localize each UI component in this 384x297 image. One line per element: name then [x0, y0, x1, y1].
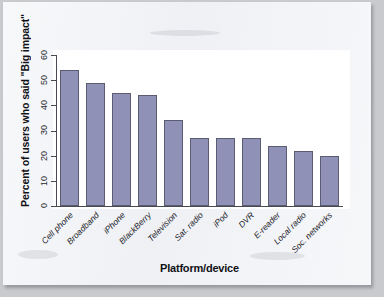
y-axis-tick-label: 60	[34, 47, 49, 63]
y-axis-tick-label-text: 40	[39, 100, 49, 110]
bar-slot	[161, 55, 187, 206]
scanned-chart-page: Percent of users who said "Big impact" 0…	[0, 0, 384, 297]
bar	[268, 146, 287, 206]
bar	[320, 156, 339, 206]
bar-slot	[83, 55, 109, 206]
x-axis-label-slot: Broadband	[83, 209, 109, 267]
bar-slot	[109, 55, 135, 206]
y-axis-tick-label-text: 30	[39, 125, 49, 135]
x-axis-label-slot: Soc. networks	[316, 209, 342, 267]
x-axis-label-text: iPod	[211, 210, 230, 229]
y-axis-tick	[51, 131, 56, 132]
bar-slot	[290, 55, 316, 206]
y-axis-tick	[51, 105, 56, 106]
y-axis-tick-label: 20	[34, 148, 49, 164]
x-axis-label-text: DVR	[237, 210, 257, 230]
y-axis-tick-label: 30	[34, 123, 49, 139]
bar	[242, 138, 261, 206]
bar	[294, 151, 313, 206]
bar	[216, 138, 235, 206]
x-axis-label-slot: Sat. radio	[187, 209, 213, 267]
y-axis-tick-label-text: 60	[39, 50, 49, 60]
bar-series	[57, 55, 342, 206]
x-axis-tick-labels: Cell phoneBroadbandiPhoneBlackBerryTelev…	[57, 209, 342, 267]
bar-slot	[316, 55, 342, 206]
x-axis-line	[56, 206, 343, 207]
y-axis-tick-label-text: 50	[39, 75, 49, 85]
bar-slot	[264, 55, 290, 206]
bar	[86, 83, 105, 206]
y-axis-tick	[51, 181, 56, 182]
bar-slot	[212, 55, 238, 206]
y-axis-title-text: Percent of users who said "Big impact"	[19, 14, 31, 207]
bar-slot	[57, 55, 83, 206]
y-axis-tick-label-text: 20	[39, 151, 49, 161]
bar-slot	[238, 55, 264, 206]
y-axis-tick-label: 50	[34, 72, 49, 88]
y-axis-tick-label: 10	[34, 173, 49, 189]
y-axis-tick	[51, 156, 56, 157]
y-axis-tick	[51, 206, 56, 207]
y-axis-title: Percent of users who said "Big impact"	[17, 12, 33, 208]
bar-slot	[135, 55, 161, 206]
y-axis-tick	[51, 80, 56, 81]
y-axis-tick-label-text: 10	[39, 176, 49, 186]
bar-slot	[187, 55, 213, 206]
bar	[60, 70, 79, 206]
bar	[164, 120, 183, 206]
y-axis-tick	[51, 55, 56, 56]
bar	[112, 93, 131, 206]
y-axis-tick-label: 0	[34, 198, 49, 214]
x-axis-label-slot: iPod	[212, 209, 238, 267]
y-axis-tick-label-text: 0	[39, 203, 49, 208]
y-axis-tick-label: 40	[34, 97, 49, 113]
bar	[190, 138, 209, 206]
bar	[138, 95, 157, 206]
x-axis-title: Platform/device	[56, 262, 343, 274]
